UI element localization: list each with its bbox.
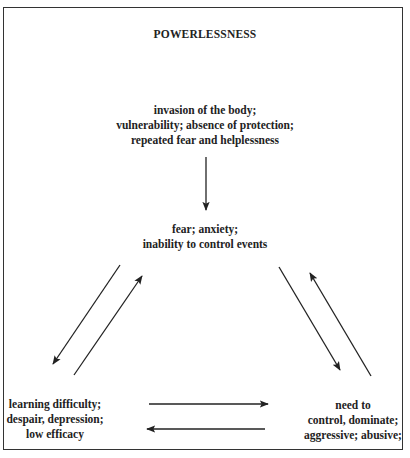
- arrow-middle-to-right: [279, 267, 340, 370]
- arrow-right-to-middle: [310, 273, 371, 376]
- arrow-middle-to-left: [53, 265, 120, 364]
- arrow-left-to-middle: [74, 276, 142, 375]
- arrows-layer: [0, 0, 410, 458]
